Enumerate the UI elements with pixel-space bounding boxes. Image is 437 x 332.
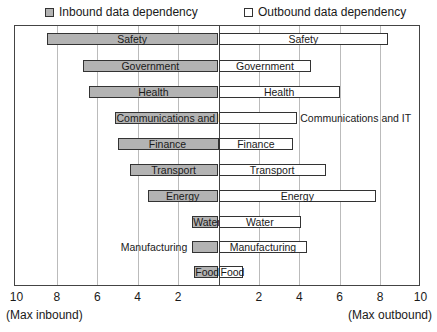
legend-outbound-label: Outbound data dependency [258,5,406,19]
x-tick-label: 10 [10,290,23,304]
plot-area: SafetySafetyGovernmentGovernmentHealthHe… [14,25,420,286]
x-tick-label: 6 [336,290,343,304]
legend-inbound-label: Inbound data dependency [59,5,198,19]
inbound-bar: Health [89,86,218,98]
x-tick-label: 4 [134,290,141,304]
x-tick-label: 8 [377,290,384,304]
outbound-bar: Water [219,216,302,228]
inbound-bar: Finance [118,138,219,150]
axis-note-left: (Max inbound) [6,308,83,322]
inbound-bar: Energy [148,190,219,202]
outbound-bar: Manufacturing [219,241,308,253]
outbound-swatch-icon [244,8,253,17]
legend-inbound: Inbound data dependency [45,5,198,19]
x-tick-label: 8 [54,290,61,304]
outbound-bar: Transport [219,164,326,176]
inbound-bar: Government [83,60,218,72]
outbound-bar [219,112,298,124]
inbound-bar: Water [192,216,218,228]
outbound-bar: Safety [219,33,389,45]
x-tick-label: 2 [175,290,182,304]
outbound-bar: Health [219,86,340,98]
gridline [340,26,341,285]
x-tick-label: 10 [414,290,427,304]
gridline [57,26,58,285]
x-tick-label: 4 [296,290,303,304]
gridline [380,26,381,285]
inbound-bar: Safety [47,33,219,45]
inbound-bar [192,241,218,253]
x-tick-label: 6 [94,290,101,304]
axis-note-right: (Max outbound) [348,308,432,322]
inbound-bar-label: Manufacturing [121,241,188,253]
inbound-bar: Food [194,266,218,278]
outbound-bar: Government [219,60,312,72]
x-tick-label: 2 [256,290,263,304]
outbound-bar: Finance [219,138,294,150]
outbound-bar: Energy [219,190,377,202]
outbound-bar-label: Communications and IT [300,112,411,124]
inbound-bar: Communications and IT [115,112,218,124]
inbound-bar: Transport [130,164,219,176]
legend-outbound: Outbound data dependency [244,5,406,19]
inbound-swatch-icon [45,8,54,17]
outbound-bar: Food [219,266,243,278]
